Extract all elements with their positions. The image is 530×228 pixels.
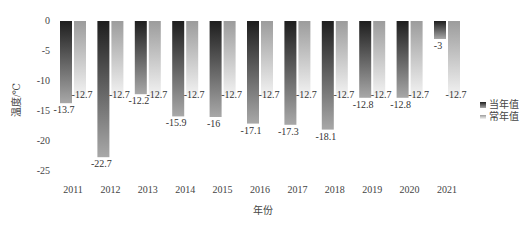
x-tick-label: 2020 [400,184,420,195]
bar-value-label: -12.7 [109,89,130,100]
bar-value-label: -12.7 [184,89,205,100]
y-axis-title: 温度/℃ [10,83,22,117]
x-tick-label: 2016 [250,184,270,195]
y-tick-label: -15 [37,105,50,116]
legend-swatch-normal [480,115,486,119]
y-tick-label: -10 [37,75,50,86]
x-tick-label: 2012 [100,184,120,195]
bar-current-year [359,21,371,98]
bar-normal-year [298,21,310,97]
bar-current-year [284,21,296,125]
bar-normal-year [261,21,273,97]
bar-value-label: -22.7 [91,158,112,169]
bar-value-label: -12.7 [371,89,392,100]
x-axis-title: 年份 [253,204,273,216]
temperature-bar-chart: 0-5-10-15-20-25 -13.7-12.7-22.7-12.7-12.… [0,0,530,228]
bar-value-label: -17.1 [241,125,262,136]
bar-current-year [135,21,147,94]
x-tick-label: 2018 [325,184,345,195]
bar-value-label: -12.7 [333,89,354,100]
bar-current-year [210,21,222,117]
bar-value-label: -12.7 [72,89,93,100]
x-tick-label: 2014 [175,184,195,195]
bar-value-label: -12.7 [221,89,242,100]
bar-current-year [247,21,259,124]
y-tick-label: 0 [45,15,50,26]
bar-normal-year [448,21,460,97]
legend-label-normal: 常年值 [489,110,519,122]
x-tick-label: 2011 [63,184,83,195]
bar-value-label: -12.7 [259,89,280,100]
x-axis-ticks: 2011201220132014201520162017201820192020… [63,184,457,195]
bar-current-year [322,21,334,130]
bar-normal-year [186,21,198,97]
bar-current-year [172,21,184,116]
x-tick-label: 2021 [437,184,457,195]
bar-value-label: -12.7 [146,89,167,100]
bar-current-year [97,21,109,157]
bar-normal-year [149,21,161,97]
y-axis-ticks: 0-5-10-15-20-25 [37,15,50,176]
bar-normal-year [373,21,385,97]
y-tick-label: -25 [37,165,50,176]
bar-current-year [397,21,409,98]
x-tick-label: 2015 [213,184,233,195]
x-tick-label: 2017 [287,184,307,195]
bar-normal-year [411,21,423,97]
bar-current-year [60,21,72,103]
legend-label-current: 当年值 [489,98,519,110]
x-tick-label: 2013 [138,184,158,195]
bar-current-year [434,21,446,39]
y-tick-label: -5 [42,45,50,56]
bar-value-label: -12.8 [390,99,411,110]
bar-value-label: -18.1 [315,131,336,142]
bar-normal-year [111,21,123,97]
bar-normal-year [74,21,86,97]
bar-value-label: -17.3 [278,126,299,137]
bar-value-label: -3 [434,40,442,51]
legend-swatch-current [480,102,486,108]
bar-value-label: -13.7 [54,104,75,115]
legend: 当年值 常年值 [480,98,519,122]
bar-value-label: -12.8 [353,99,374,110]
bar-value-label: -16 [207,118,220,129]
bar-value-label: -12.7 [408,89,429,100]
bar-normal-year [224,21,236,97]
x-tick-label: 2019 [362,184,382,195]
bar-value-label: -15.9 [166,117,187,128]
bar-value-label: -12.7 [446,89,467,100]
y-tick-label: -20 [37,135,50,146]
bar-value-label: -12.7 [296,89,317,100]
bar-normal-year [336,21,348,97]
